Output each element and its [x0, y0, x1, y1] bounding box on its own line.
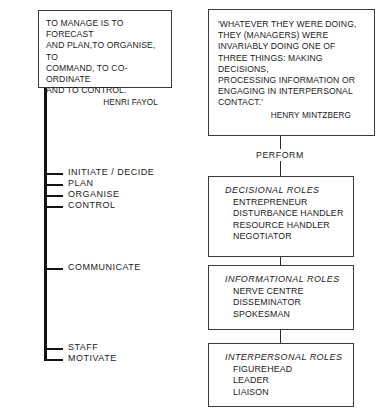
function-tick-0: [44, 173, 63, 175]
connector-decisional-to-informational: [280, 257, 281, 265]
function-label: COMMUNICATE: [68, 262, 141, 273]
decisional-roles-title: DECISIONAL ROLES: [209, 184, 353, 196]
role-item: NEGOTIATOR: [233, 231, 353, 242]
role-item: LEADER: [233, 375, 353, 386]
function-label: MOTIVATE: [68, 353, 117, 364]
decisional-roles-box: DECISIONAL ROLES ENTREPRENEURDISTURBANCE…: [208, 176, 354, 257]
decisional-roles-list: ENTREPRENEURDISTURBANCE HANDLERRESOURCE …: [209, 197, 353, 242]
mintzberg-quote-text: 'WHATEVER THEY WERE DOING, THEY (MANAGER…: [218, 19, 365, 109]
role-item: DISTURBANCE HANDLER: [233, 208, 353, 219]
role-item: DISSEMINATOR: [233, 297, 353, 308]
management-roles-diagram: TO MANAGE IS TO FORECAST AND PLAN,TO ORG…: [0, 0, 388, 417]
function-tick-5: [44, 348, 63, 350]
interpersonal-roles-box: INTERPERSONAL ROLES FIGUREHEADLEADERLIAI…: [208, 343, 354, 407]
function-tick-6: [44, 359, 63, 361]
fayol-quote-attribution: HENRI FAYOL: [46, 97, 164, 108]
role-item: RESOURCE HANDLER: [233, 220, 353, 231]
function-tick-1: [44, 184, 63, 186]
function-label: CONTROL: [68, 200, 116, 211]
perform-connector-label: PERFORM: [253, 149, 307, 161]
informational-roles-title: INFORMATIONAL ROLES: [209, 273, 353, 285]
function-label: PLAN: [68, 178, 94, 189]
role-item: FIGUREHEAD: [233, 364, 353, 375]
function-tick-4: [44, 268, 63, 270]
function-label: STAFF: [68, 342, 98, 353]
functions-spine-line: [44, 88, 47, 360]
function-label: INITIATE / DECIDE: [68, 167, 154, 178]
role-item: SPOKESMAN: [233, 309, 353, 320]
informational-roles-box: INFORMATIONAL ROLES NERVE CENTREDISSEMIN…: [208, 265, 354, 330]
connector-informational-to-interpersonal: [280, 330, 281, 343]
mintzberg-quote-box: 'WHATEVER THEY WERE DOING, THEY (MANAGER…: [208, 9, 375, 136]
mintzberg-quote-attribution: HENRY MINTZBERG: [218, 110, 365, 121]
role-item: NERVE CENTRE: [233, 286, 353, 297]
informational-roles-list: NERVE CENTREDISSEMINATORSPOKESMAN: [209, 286, 353, 320]
fayol-quote-text: TO MANAGE IS TO FORECAST AND PLAN,TO ORG…: [46, 18, 164, 96]
interpersonal-roles-title: INTERPERSONAL ROLES: [209, 351, 353, 363]
interpersonal-roles-list: FIGUREHEADLEADERLIAISON: [209, 364, 353, 398]
role-item: ENTREPRENEUR: [233, 197, 353, 208]
function-label: ORGANISE: [68, 189, 120, 200]
fayol-quote-box: TO MANAGE IS TO FORECAST AND PLAN,TO ORG…: [38, 10, 172, 88]
function-tick-2: [44, 195, 63, 197]
function-tick-3: [44, 206, 63, 208]
role-item: LIAISON: [233, 387, 353, 398]
